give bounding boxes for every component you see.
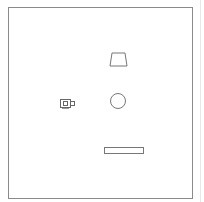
circle-shape[interactable] [111,94,126,109]
diagram-shapes [0,0,204,202]
rectangle-shape[interactable] [105,148,144,154]
trapezoid-shape[interactable] [110,53,127,66]
camera-icon[interactable] [61,100,75,109]
